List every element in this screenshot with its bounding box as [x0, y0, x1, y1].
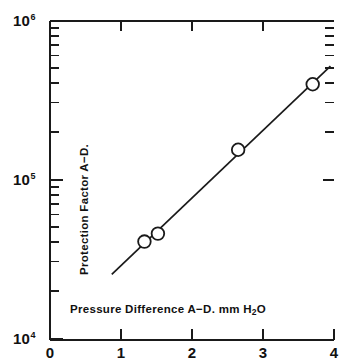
x-axis-top-ticks — [121, 21, 263, 31]
right-edge-ticks — [323, 28, 334, 180]
data-point — [152, 227, 165, 240]
x-tick-label-3: 3 — [254, 345, 272, 360]
x-axis-ticks — [121, 329, 334, 340]
x-tick-label-1: 1 — [112, 345, 130, 360]
figure-container: 106 105 104 0 1 2 3 4 Pressure Differenc… — [0, 0, 350, 364]
y-tick-label-1e6: 106 — [13, 13, 36, 28]
x-tick-label-4: 4 — [325, 345, 343, 360]
x-axis-title: Pressure Difference A−D. mm H2O — [70, 303, 266, 315]
x-tick-label-2: 2 — [183, 345, 201, 360]
x-tick-label-0: 0 — [41, 345, 59, 360]
y-tick-label-1e5: 105 — [13, 172, 36, 187]
data-point — [306, 78, 319, 91]
data-point — [138, 235, 151, 248]
y-axis-minor-ticks — [50, 28, 59, 291]
y-axis-title: Protection Factor A−D. — [78, 144, 90, 275]
data-point — [232, 143, 245, 156]
y-tick-label-1e4: 104 — [13, 331, 36, 346]
